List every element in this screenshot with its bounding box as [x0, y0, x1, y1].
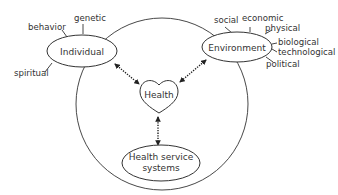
factor-spiritual: spiritual: [14, 68, 49, 78]
health-service-label-line1: Health service: [129, 152, 194, 162]
tick-technological: [272, 49, 277, 52]
health-determinants-diagram: Individual Environment Health Health ser…: [0, 0, 338, 195]
health-service-label-line2: systems: [142, 163, 180, 173]
node-individual: Individual: [47, 35, 117, 67]
individual-label: Individual: [60, 47, 104, 57]
factor-physical: physical: [265, 23, 300, 33]
factor-social: social: [214, 15, 239, 25]
environment-label: Environment: [208, 43, 266, 53]
health-label: Health: [144, 90, 174, 100]
factor-genetic: genetic: [74, 13, 106, 23]
arrow-individual-health: [115, 64, 139, 84]
factor-technological: technological: [278, 47, 335, 57]
factor-biological: biological: [278, 37, 319, 47]
factor-political: political: [266, 59, 300, 69]
arrow-environment-health: [180, 60, 206, 82]
node-health: Health: [140, 81, 178, 113]
tick-biological: [272, 43, 277, 44]
factor-economic: economic: [242, 13, 284, 23]
factor-behavior: behavior: [28, 22, 66, 32]
node-health-service-systems: Health service systems: [122, 145, 200, 181]
node-environment: Environment: [202, 32, 272, 62]
